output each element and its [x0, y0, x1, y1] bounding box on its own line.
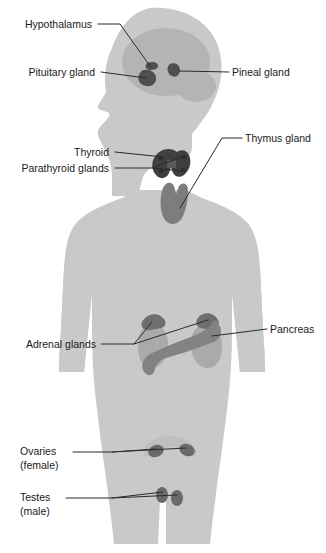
endocrine-system-diagram: Hypothalamus Pituitary gland Pineal glan… [0, 0, 326, 553]
right-testis-shape [171, 490, 183, 506]
label-ovaries: Ovaries [20, 445, 56, 457]
label-pituitary-gland: Pituitary gland [28, 66, 95, 78]
label-pineal-gland: Pineal gland [232, 66, 290, 78]
parathyroid-gland-dot [181, 168, 186, 173]
label-ovaries-sub: (female) [20, 459, 59, 471]
label-thymus-gland: Thymus gland [245, 132, 311, 144]
label-hypothalamus: Hypothalamus [25, 18, 92, 30]
label-testes-sub: (male) [20, 505, 50, 517]
label-pancreas: Pancreas [270, 323, 314, 335]
label-testes: Testes [20, 491, 50, 503]
label-parathyroid-glands: Parathyroid glands [21, 162, 109, 174]
body-silhouette-group [59, 8, 265, 544]
body-diagram-svg: Hypothalamus Pituitary gland Pineal glan… [0, 0, 326, 553]
label-adrenal-glands: Adrenal glands [26, 338, 96, 350]
cerebellum-shape [176, 70, 216, 102]
label-thyroid: Thyroid [74, 146, 109, 158]
